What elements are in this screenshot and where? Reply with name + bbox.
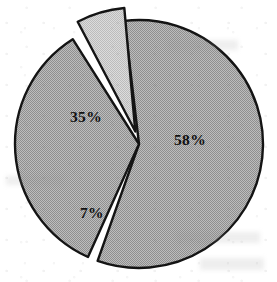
pie-slice-label: 35% <box>70 108 102 125</box>
pie-slice-label: 7% <box>80 204 104 221</box>
pie-slice-label: 58% <box>174 131 206 148</box>
pie-chart-canvas: 58%35%7% <box>0 0 277 282</box>
pie-chart: 58%35%7% <box>0 0 277 282</box>
